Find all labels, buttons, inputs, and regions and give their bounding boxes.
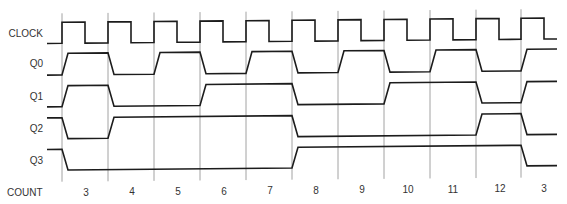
count-value: 11 <box>448 184 459 195</box>
count-value: 9 <box>359 184 365 195</box>
waveforms <box>47 18 557 170</box>
count-value: 3 <box>541 183 547 194</box>
timing-diagram: CLOCK Q0 Q1 Q2 Q3 COUNT 3 4 5 6 7 8 9 10… <box>0 0 567 204</box>
waveform-clock <box>47 18 557 43</box>
waveform-q0 <box>47 49 557 75</box>
count-value: 10 <box>402 184 414 195</box>
count-value: 6 <box>221 186 227 197</box>
waveform-q2 <box>47 114 557 139</box>
signal-label-q3: Q3 <box>30 155 44 166</box>
count-value: 4 <box>129 186 135 197</box>
signal-label-clock: CLOCK <box>9 28 44 39</box>
count-value: 3 <box>83 187 89 198</box>
count-value: 5 <box>175 186 181 197</box>
count-value: 7 <box>267 185 273 196</box>
signal-label-q2: Q2 <box>30 123 44 134</box>
waveform-q1 <box>47 81 557 106</box>
count-row-title: COUNT <box>7 187 43 198</box>
count-value: 8 <box>313 185 319 196</box>
count-value: 12 <box>494 183 506 194</box>
waveform-q3 <box>47 145 557 170</box>
signal-label-q0: Q0 <box>30 58 44 69</box>
signal-label-q1: Q1 <box>30 91 44 102</box>
